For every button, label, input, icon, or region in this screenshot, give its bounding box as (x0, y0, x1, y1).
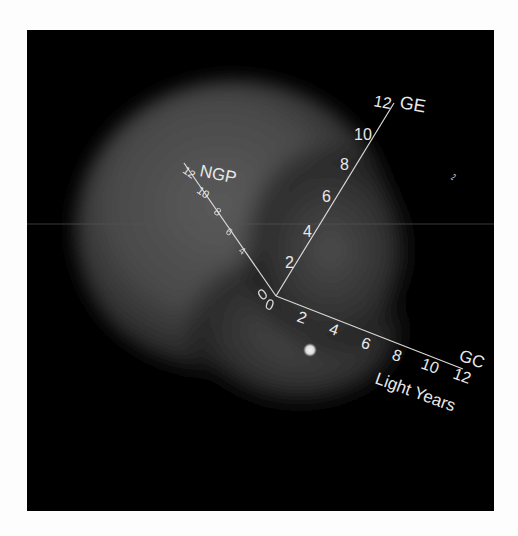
gc-tick-10: 10 (419, 355, 442, 377)
cloud-diagram: 2 4 6 8 10 12 GE 2 4 6 8 10 12 NGP 2 4 6… (27, 30, 494, 511)
ge-tick-10: 10 (354, 126, 372, 143)
ge-tick-12: 12 (372, 92, 393, 112)
sun-star (303, 343, 317, 357)
visualization-panel: 2 4 6 8 10 12 GE 2 4 6 8 10 12 NGP 2 4 6… (27, 30, 494, 511)
ge-tick-6: 6 (322, 188, 331, 205)
ge-axis-label: GE (398, 92, 427, 116)
units-label: Light Years (373, 369, 459, 416)
ge-tick-2: 2 (285, 254, 294, 271)
ngp-tick-2: 2 (449, 172, 458, 183)
ge-tick-8: 8 (340, 156, 349, 173)
ge-tick-4: 4 (303, 223, 312, 240)
